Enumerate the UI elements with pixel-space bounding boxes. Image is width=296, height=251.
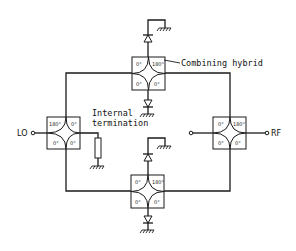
svg-text:0°: 0° xyxy=(218,140,224,146)
combining-hybrid-label: Combining hybrid xyxy=(181,58,263,68)
hybrid-left-lo: 180° 0° 0° 0° xyxy=(47,117,80,149)
svg-text:0°: 0° xyxy=(53,140,59,146)
rf-label: RF xyxy=(271,129,282,138)
internal-termination-resistor xyxy=(90,138,104,169)
mixer-schematic: 0° 180° 0° 0° 180° 0° 0° 0° 0° 180° 0° 0… xyxy=(0,0,296,251)
diode-top-lower xyxy=(143,100,153,107)
svg-text:0°: 0° xyxy=(218,121,224,127)
hybrid-top: 0° 180° 0° 0° xyxy=(132,57,165,90)
combining-hybrid-leader xyxy=(164,60,180,63)
internal-termination-label-2: termination xyxy=(92,118,148,128)
ground-icon xyxy=(140,114,154,117)
svg-text:0°: 0° xyxy=(70,140,76,146)
rf-port xyxy=(265,131,269,135)
right-hybrid-open-port xyxy=(189,131,193,135)
hybrid-right-rf: 0° 180° 0° 0° xyxy=(213,117,246,149)
svg-text:180°: 180° xyxy=(152,179,165,185)
svg-text:0°: 0° xyxy=(154,199,160,205)
diode-bottom-lower xyxy=(143,216,153,223)
svg-text:0°: 0° xyxy=(154,81,160,87)
ground-icon xyxy=(140,230,154,233)
svg-text:0°: 0° xyxy=(235,140,241,146)
hybrid-bottom: 0° 180° 0° 0° xyxy=(131,175,165,208)
lo-label: LO xyxy=(17,129,27,138)
svg-text:0°: 0° xyxy=(136,81,142,87)
svg-text:0°: 0° xyxy=(135,199,141,205)
svg-text:180°: 180° xyxy=(49,121,62,127)
svg-text:0°: 0° xyxy=(136,61,142,67)
internal-termination-label-1: Internal xyxy=(92,108,133,118)
diode-bottom-upper xyxy=(143,154,153,161)
ground-icon xyxy=(157,28,171,31)
svg-text:0°: 0° xyxy=(135,179,141,185)
lo-port xyxy=(31,131,35,135)
diode-top-upper xyxy=(143,35,153,42)
svg-text:0°: 0° xyxy=(71,121,77,127)
svg-text:180°: 180° xyxy=(152,61,165,67)
svg-text:180°: 180° xyxy=(233,121,246,127)
ground-icon xyxy=(157,146,171,149)
